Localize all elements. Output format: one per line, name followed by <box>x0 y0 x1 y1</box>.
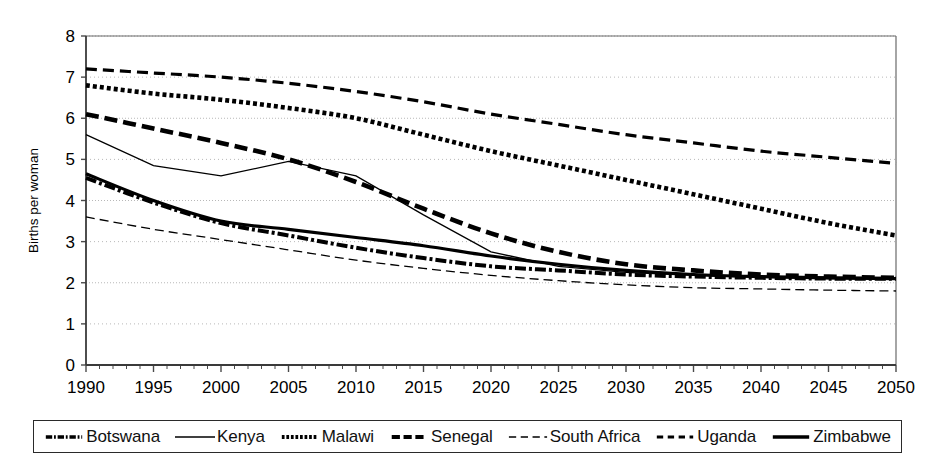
chart-plot-area: 012345678Births per woman199019952000200… <box>0 0 935 470</box>
legend-line-swatch <box>655 430 695 444</box>
y-axis-tick-label: 6 <box>66 109 75 128</box>
x-axis-tick-label: 1995 <box>135 378 173 397</box>
x-axis-tick-label: 2025 <box>540 378 578 397</box>
legend-item-label: South Africa <box>550 427 640 447</box>
x-axis-tick-label: 2040 <box>742 378 780 397</box>
x-axis-tick-label: 2015 <box>405 378 443 397</box>
y-axis-tick-label: 5 <box>66 150 75 169</box>
legend-item-zimbabwe[interactable]: Zimbabwe <box>770 421 892 452</box>
legend-item-uganda[interactable]: Uganda <box>654 421 757 452</box>
legend-item-botswana[interactable]: Botswana <box>43 421 161 452</box>
legend-item-label: Botswana <box>86 427 160 447</box>
legend-line-swatch <box>508 430 548 444</box>
x-axis-tick-label: 2050 <box>877 378 915 397</box>
legend-item-label: Senegal <box>431 427 493 447</box>
x-axis-tick-label: 2000 <box>202 378 240 397</box>
legend-item-malawi[interactable]: Malawi <box>279 421 375 452</box>
x-axis-tick-label: 2020 <box>472 378 510 397</box>
y-axis-title: Births per woman <box>26 148 41 253</box>
legend-item-label: Kenya <box>217 427 265 447</box>
x-axis-tick-label: 1990 <box>67 378 105 397</box>
legend-line-swatch <box>771 430 811 444</box>
y-axis-tick-label: 7 <box>66 68 75 87</box>
legend-line-swatch <box>280 430 320 444</box>
legend-item-label: Uganda <box>697 427 756 447</box>
legend-item-kenya[interactable]: Kenya <box>174 421 266 452</box>
chart-legend: BotswanaKenyaMalawiSenegalSouth AfricaUg… <box>33 420 902 453</box>
legend-item-south-africa[interactable]: South Africa <box>507 421 641 452</box>
y-axis-tick-label: 4 <box>66 192 75 211</box>
legend-line-swatch <box>44 430 84 444</box>
y-axis-tick-label: 1 <box>66 315 75 334</box>
y-axis-tick-label: 8 <box>66 27 75 46</box>
x-axis-tick-label: 2030 <box>607 378 645 397</box>
x-axis-tick-label: 2045 <box>810 378 848 397</box>
y-axis-tick-label: 0 <box>66 356 75 375</box>
legend-item-label: Zimbabwe <box>813 427 891 447</box>
x-axis-tick-label: 2035 <box>675 378 713 397</box>
legend-line-swatch <box>175 430 215 444</box>
y-axis-tick-label: 3 <box>66 233 75 252</box>
legend-item-label: Malawi <box>322 427 374 447</box>
y-axis-tick-label: 2 <box>66 274 75 293</box>
legend-item-senegal[interactable]: Senegal <box>388 421 494 452</box>
fertility-trend-chart: 012345678Births per woman199019952000200… <box>0 0 935 470</box>
legend-line-swatch <box>389 430 429 444</box>
chart-background <box>0 0 935 470</box>
x-axis-tick-label: 2010 <box>337 378 375 397</box>
x-axis-tick-label: 2005 <box>270 378 308 397</box>
